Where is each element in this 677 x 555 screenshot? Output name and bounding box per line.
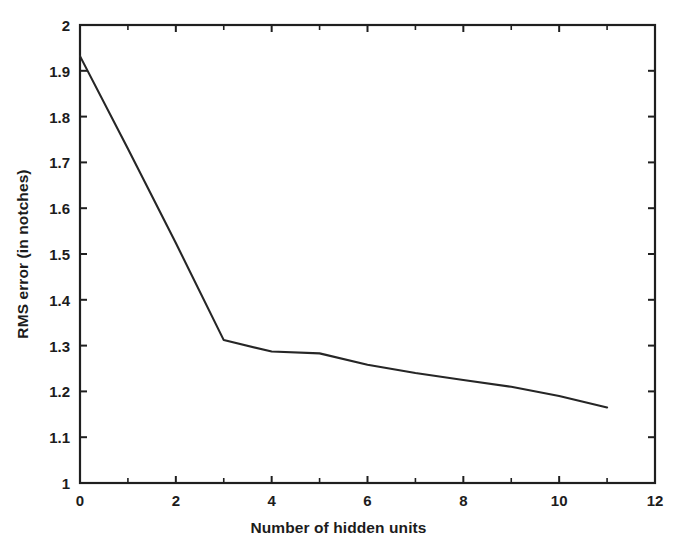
y-tick-label: 1.7 [0, 154, 70, 171]
x-tick-label: 0 [76, 492, 84, 509]
y-tick-label: 1.1 [0, 429, 70, 446]
y-tick-label: 1.9 [0, 62, 70, 79]
y-tick-label: 1.2 [0, 383, 70, 400]
plot-frame [80, 25, 655, 483]
y-tick-label: 1.4 [0, 291, 70, 308]
x-tick-label: 12 [647, 492, 664, 509]
axis-ticks [80, 25, 655, 483]
x-axis-title: Number of hidden units [0, 519, 677, 537]
x-tick-label: 8 [459, 492, 467, 509]
data-series-group [80, 56, 607, 407]
y-tick-label: 1 [0, 475, 70, 492]
y-tick-label: 1.3 [0, 337, 70, 354]
chart-figure: RMS error (in notches) Number of hidden … [0, 0, 677, 555]
series-line-0 [80, 56, 607, 407]
y-tick-label: 1.8 [0, 108, 70, 125]
x-tick-label: 2 [172, 492, 180, 509]
y-tick-label: 1.5 [0, 246, 70, 263]
x-tick-label: 6 [363, 492, 371, 509]
x-tick-label: 10 [551, 492, 568, 509]
x-tick-label: 4 [267, 492, 275, 509]
y-tick-label: 2 [0, 17, 70, 34]
chart-plot-area [0, 0, 677, 555]
y-tick-label: 1.6 [0, 200, 70, 217]
axes-frame [80, 25, 655, 483]
